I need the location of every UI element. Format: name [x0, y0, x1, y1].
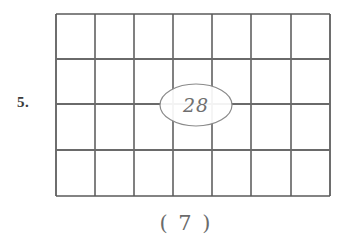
ellipse-callout: 28	[160, 84, 232, 126]
grid-figure: 28 ( 7 )	[0, 0, 345, 242]
ellipse-value-text: 28	[182, 94, 209, 116]
worksheet-page: 5.	[0, 0, 345, 242]
answer-blank-text: ( 7 )	[159, 211, 212, 235]
grid-diagram-svg: 28 ( 7 )	[0, 0, 345, 242]
